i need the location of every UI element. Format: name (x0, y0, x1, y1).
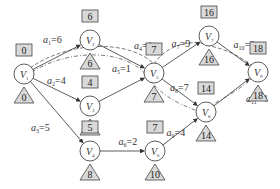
earliest-time-value: 16 (204, 7, 214, 18)
latest-time-value: 6 (88, 58, 93, 69)
edge-label-a1: a1=6 (43, 34, 62, 46)
latest-time-value: 0 (22, 92, 27, 103)
earliest-time-value: 4 (88, 77, 93, 88)
latest-time-value: 10 (150, 169, 160, 180)
latest-time-value: 8 (88, 169, 93, 180)
node-v8: V81414 (196, 82, 216, 141)
latest-time-value: 7 (152, 91, 157, 102)
edge-label-a9: a9=4 (167, 127, 186, 139)
latest-time-value: 16 (204, 54, 214, 65)
edge-V8-V9 (214, 79, 249, 106)
earliest-time-value: 7 (152, 44, 157, 55)
node-v1: V100 (14, 44, 34, 103)
node-v5: V577 (144, 43, 164, 102)
earliest-time-value: 14 (201, 83, 211, 94)
earliest-time-value: 18 (253, 43, 263, 54)
edge-label-a3: a3=5 (31, 122, 50, 134)
node-v2: V266 (80, 10, 100, 69)
node-v7: V71616 (199, 6, 219, 65)
edge-label-a5: a5=1 (112, 63, 131, 75)
nodes-layer: V100V266V346V458V577V6710V71616V81414V91… (14, 6, 268, 180)
earliest-time-value: 0 (22, 45, 27, 56)
network-diagram: a1=6a2=4a3=5a4=1a5=1a6=2a7=9a8=7a9=4a10=… (0, 0, 280, 189)
earliest-time-value: 5 (88, 122, 93, 133)
edge-V1-V2 (33, 45, 80, 69)
node-v6: V6710 (145, 121, 165, 180)
edge-label-a2: a2=4 (47, 75, 66, 87)
latest-time-value: 14 (201, 130, 211, 141)
edge-label-a8: a8=7 (170, 82, 189, 94)
edge-V3-V5 (99, 78, 144, 101)
edge-label-a7: a7=9 (172, 38, 191, 50)
latest-time-value: 18 (253, 90, 263, 101)
earliest-time-value: 7 (153, 122, 158, 133)
earliest-time-value: 6 (88, 11, 93, 22)
edge-label-a6: a6=2 (119, 136, 138, 148)
node-v4: V458 (80, 121, 100, 180)
